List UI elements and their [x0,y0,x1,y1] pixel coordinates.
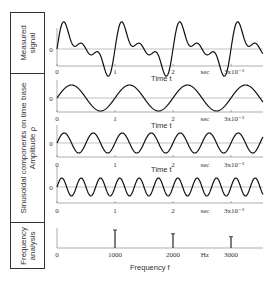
component-1000hz-time-label: Time t [151,121,172,130]
component-2000hz-tick-1: 1 [113,161,117,169]
frequency-tick-1000: 1000 [108,251,123,259]
component-3000hz-tick-sec: sec [200,207,209,215]
component-3000hz-tick-0: 0 [55,207,59,215]
frequency-unit-hz: Hz [201,251,209,259]
frequency-axis-label: Frequency f [130,263,171,272]
component-3000hz-tick-2: 2 [171,207,175,215]
plots-canvas: 0012sec3x10⁻³Time t0012sec3x10⁻³Time t00… [0,0,273,282]
component-1000hz-tick-1: 1 [113,115,117,123]
component-2000hz-time-label: Time t [151,165,172,174]
measured-signal-tick-3: 3x10⁻³ [224,68,244,76]
measured-signal-tick-2: 2 [171,68,175,76]
component-2000hz-tick-3: 3x10⁻³ [224,161,244,169]
component-1000hz-tick-3: 3x10⁻³ [224,115,244,123]
measured-signal-tick-0: 0 [55,68,59,76]
component-2000hz-tick-2: 2 [171,161,175,169]
measured-signal-time-label: Time t [151,74,172,83]
component-3000hz-tick-1: 1 [113,207,117,215]
component-1000hz-tick-2: 2 [171,115,175,123]
component-3000hz-zero-tick: 0 [49,184,53,192]
frequency-tick-2000: 2000 [166,251,181,259]
frequency-tick-3000: 3000 [224,251,239,259]
frequency-tick-0: 0 [55,251,59,259]
component-1000hz-tick-0: 0 [55,115,59,123]
component-1000hz-zero-tick: 0 [49,95,53,103]
component-3000hz-tick-3: 3x10⁻³ [224,207,244,215]
component-1000hz-tick-sec: sec [200,115,209,123]
measured-signal-tick-sec: sec [200,68,209,76]
component-2000hz-tick-sec: sec [200,161,209,169]
measured-signal-tick-1: 1 [113,68,117,76]
measured-signal-zero-tick: 0 [49,46,53,54]
component-2000hz-zero-tick: 0 [49,140,53,148]
